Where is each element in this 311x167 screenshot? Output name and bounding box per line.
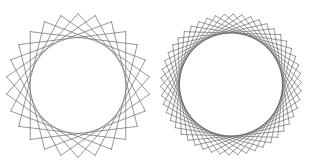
chord-line — [168, 53, 195, 146]
chord-line — [161, 14, 225, 86]
chord-line — [45, 111, 146, 149]
chord-line — [111, 22, 137, 127]
chord-line — [229, 91, 301, 155]
chord-line — [220, 100, 300, 154]
chord-line — [163, 18, 207, 104]
chord-line — [19, 22, 45, 127]
chord-line — [163, 104, 246, 153]
chord-line — [224, 14, 300, 73]
chord-line — [168, 20, 259, 53]
chord-line — [7, 77, 78, 158]
chord-line — [162, 15, 242, 69]
chord-line — [251, 17, 300, 100]
chord-line — [246, 73, 300, 153]
chord-line — [170, 26, 191, 120]
chord-line — [263, 56, 296, 147]
chord-line — [165, 17, 251, 61]
chord-line — [95, 60, 145, 155]
chord-line — [161, 96, 237, 155]
right-star-polygon — [161, 14, 302, 155]
chord-line — [78, 14, 149, 95]
chord-line — [211, 108, 297, 152]
chord-line — [216, 16, 299, 65]
chord-line — [188, 131, 284, 140]
chord-line — [78, 77, 149, 158]
chord-line — [203, 116, 294, 149]
left-star-polygon — [7, 14, 150, 158]
chord-line — [173, 24, 267, 45]
chord-line — [271, 49, 292, 143]
chord-line — [7, 94, 96, 155]
chord-line — [7, 16, 96, 77]
chord-line — [178, 29, 274, 38]
chord-line — [165, 61, 203, 150]
chord-line — [207, 18, 296, 56]
chord-line — [111, 45, 137, 150]
chord-line — [242, 15, 301, 91]
chord-line — [166, 113, 255, 151]
chord-line — [162, 69, 211, 152]
chord-line — [161, 14, 233, 78]
chord-line — [195, 124, 289, 145]
chord-line — [61, 94, 150, 155]
chord-line — [238, 82, 302, 154]
chord-line — [166, 22, 199, 113]
chord-line — [61, 16, 150, 77]
chord-line — [161, 16, 215, 96]
chord-line — [11, 60, 61, 155]
chord-line — [45, 22, 146, 60]
chord-line — [161, 78, 220, 154]
chord-line — [278, 41, 287, 137]
chord-line — [11, 111, 112, 149]
chord-line — [255, 65, 299, 151]
diagram-canvas — [0, 0, 311, 167]
chord-line — [11, 16, 61, 111]
chord-line — [267, 24, 294, 117]
chord-line — [11, 22, 112, 60]
chord-line — [19, 45, 45, 150]
chord-line — [259, 20, 297, 109]
chord-line — [7, 14, 78, 95]
chord-line — [175, 32, 184, 128]
chord-line — [95, 16, 145, 111]
